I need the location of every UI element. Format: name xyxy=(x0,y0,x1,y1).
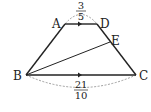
bc-denominator: 10 xyxy=(75,90,88,101)
segment-dc xyxy=(97,24,136,75)
parallel-mark-ad-icon xyxy=(78,22,82,27)
parallel-mark-bc-icon xyxy=(78,73,82,78)
label-a: A xyxy=(51,17,61,31)
ad-denominator: 5 xyxy=(78,11,84,22)
label-e: E xyxy=(111,34,120,48)
label-b: B xyxy=(13,69,22,83)
ad-numerator: 3 xyxy=(78,0,84,11)
trapezoid-diagram: A D E B C 3 5 21 10 xyxy=(0,0,151,112)
label-c: C xyxy=(139,69,148,83)
label-d: D xyxy=(100,17,110,31)
bc-numerator: 21 xyxy=(75,79,88,90)
